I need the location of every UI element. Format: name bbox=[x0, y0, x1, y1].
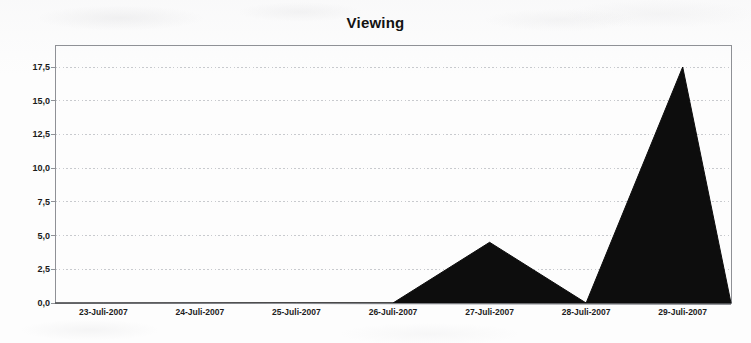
x-tick-label: 25-Juli-2007 bbox=[272, 307, 321, 317]
plot-area: 0,02,55,07,510,012,515,017,5 23-Juli-200… bbox=[0, 0, 751, 343]
area-series bbox=[55, 67, 731, 303]
x-tick-label: 27-Juli-2007 bbox=[465, 307, 514, 317]
x-tick-label: 29-Juli-2007 bbox=[658, 307, 707, 317]
y-tick-label: 2,5 bbox=[10, 264, 50, 274]
x-tick-label: 26-Juli-2007 bbox=[369, 307, 418, 317]
y-axis-ticks bbox=[51, 67, 55, 303]
y-tick-label: 12,5 bbox=[10, 129, 50, 139]
y-tick-label: 0,0 bbox=[10, 298, 50, 308]
y-tick-label: 17,5 bbox=[10, 62, 50, 72]
x-tick-label: 28-Juli-2007 bbox=[562, 307, 611, 317]
chart-screenshot: Viewing 0,02,55,07,510,012,515,017,5 23-… bbox=[0, 0, 751, 343]
x-tick-label: 23-Juli-2007 bbox=[79, 307, 128, 317]
y-tick-label: 5,0 bbox=[10, 231, 50, 241]
y-tick-label: 15,0 bbox=[10, 96, 50, 106]
y-tick-label: 7,5 bbox=[10, 197, 50, 207]
x-tick-label: 24-Juli-2007 bbox=[176, 307, 225, 317]
y-tick-label: 10,0 bbox=[10, 163, 50, 173]
y-axis-tick-labels: 0,02,55,07,510,012,515,017,5 bbox=[8, 0, 50, 343]
area-chart-svg bbox=[0, 0, 751, 343]
